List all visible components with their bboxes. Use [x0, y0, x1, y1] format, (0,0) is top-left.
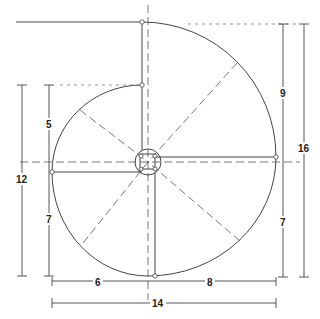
- diagonal-ll: [83, 162, 148, 243]
- spiral-diagram: 5 7 12 9 7 16 6 8 14: [0, 0, 320, 319]
- diagonal-lr: [148, 162, 240, 241]
- spiral-arc-4: [142, 22, 276, 157]
- dim-right-lower: 7: [280, 217, 286, 228]
- dim-left-lower: 7: [46, 214, 52, 225]
- dim-right-total: 16: [298, 143, 310, 154]
- spiral-arc-1: [52, 85, 142, 172]
- spiral-arc-2: [52, 172, 148, 276]
- dim-bottom-right: 8: [207, 277, 213, 288]
- dim-bottom-total: 14: [152, 298, 164, 309]
- dim-right-upper: 9: [280, 88, 286, 99]
- dim-bottom-left: 6: [95, 277, 101, 288]
- dim-left-upper: 5: [46, 119, 52, 130]
- dim-left-total: 12: [16, 174, 28, 185]
- diagonal-ur: [148, 63, 237, 162]
- diagonal-ul: [80, 110, 148, 162]
